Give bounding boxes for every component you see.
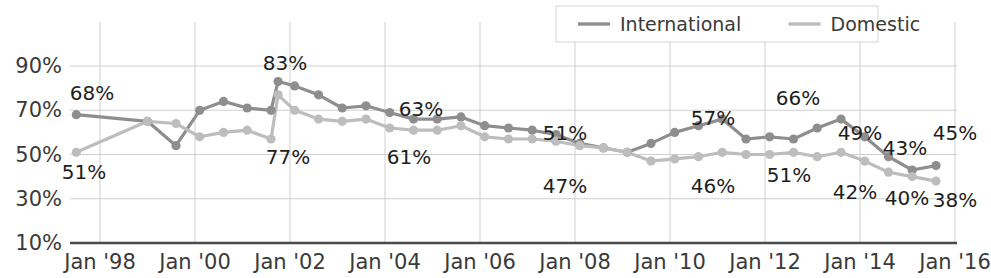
data-point-domestic [931,177,940,186]
x-axis-tick-label: Jan '10 [632,250,706,274]
data-point-domestic [765,150,774,159]
data-point-international [741,134,750,143]
data-point-international [72,110,81,119]
data-point-international [813,123,822,132]
data-point-domestic [266,134,275,143]
data-label: 42% [833,180,877,204]
data-point-domestic [504,134,513,143]
y-axis-tick-label: 10% [15,231,62,255]
data-point-domestic [599,143,608,152]
data-point-domestic [361,115,370,124]
data-point-domestic [143,117,152,126]
data-point-domestic [219,128,228,137]
chart-legend[interactable]: InternationalDomestic [556,6,920,42]
data-label: 66% [776,86,820,110]
line-chart: 10%30%50%70%90% Jan '98Jan '00Jan '02Jan… [0,0,991,278]
data-point-domestic [694,152,703,161]
data-point-international [456,112,465,121]
data-point-international [266,106,275,115]
data-point-domestic [718,148,727,157]
x-axis-tick-label: Jan '98 [62,250,136,274]
data-point-international [338,103,347,112]
y-axis-tick-label: 50% [15,143,62,167]
data-point-international [789,134,798,143]
x-axis-tick-label: Jan '02 [252,250,326,274]
data-point-domestic [480,132,489,141]
data-point-international [274,77,283,86]
data-point-domestic [385,123,394,132]
data-point-international [765,132,774,141]
data-label: 38% [933,188,977,212]
data-point-domestic [836,148,845,157]
data-label: 77% [266,145,310,169]
data-point-domestic [528,134,537,143]
x-axis-tick-label: Jan '06 [442,250,516,274]
data-label: 46% [691,174,735,198]
data-point-domestic [433,126,442,135]
x-axis-tick-label: Jan '12 [727,250,801,274]
data-point-domestic [813,152,822,161]
legend-label-international[interactable]: International [620,13,741,35]
data-point-domestic [456,121,465,130]
data-point-domestic [195,132,204,141]
data-point-international [528,126,537,135]
data-label: 68% [70,81,114,105]
data-label: 83% [263,51,307,75]
data-point-domestic [670,154,679,163]
data-point-international [670,128,679,137]
data-point-international [480,121,489,130]
data-point-domestic [274,90,283,99]
data-point-international [195,106,204,115]
data-label: 61% [387,145,431,169]
x-axis-tick-label: Jan '08 [537,250,611,274]
data-label: 57% [691,106,735,130]
data-point-domestic [884,168,893,177]
data-point-international [171,141,180,150]
data-point-domestic [860,157,869,166]
data-point-domestic [409,126,418,135]
data-point-international [243,103,252,112]
data-point-international [931,161,940,170]
data-point-international [646,139,655,148]
chart-canvas: 10%30%50%70%90% Jan '98Jan '00Jan '02Jan… [0,0,991,278]
data-label: 47% [543,174,587,198]
data-point-domestic [741,150,750,159]
data-point-domestic [908,172,917,181]
data-point-domestic [646,157,655,166]
data-point-domestic [290,106,299,115]
data-label: 49% [838,121,882,145]
data-label: 63% [399,97,443,121]
data-point-domestic [623,148,632,157]
data-point-international [361,101,370,110]
x-axis-tick-label: Jan '14 [822,250,896,274]
data-label: 43% [883,136,927,160]
data-point-international [504,123,513,132]
x-axis-tick-label: Jan '04 [347,250,421,274]
y-axis-tick-label: 90% [15,54,62,78]
data-point-international [314,90,323,99]
data-point-domestic [789,148,798,157]
data-point-domestic [171,119,180,128]
data-point-domestic [338,117,347,126]
x-axis-tick-label: Jan '00 [157,250,231,274]
data-point-domestic [314,115,323,124]
data-label: 51% [543,121,587,145]
data-point-international [219,97,228,106]
legend-label-domestic[interactable]: Domestic [831,13,921,35]
x-axis-tick-label: Jan '16 [917,250,991,274]
data-point-international [290,81,299,90]
data-label: 51% [767,163,811,187]
y-axis-tick-label: 70% [15,98,62,122]
data-label: 40% [885,186,929,210]
y-axis-tick-label: 30% [15,187,62,211]
data-point-domestic [72,148,81,157]
data-label: 51% [62,160,106,184]
data-point-domestic [243,126,252,135]
data-label: 45% [933,121,977,145]
data-point-international [385,108,394,117]
